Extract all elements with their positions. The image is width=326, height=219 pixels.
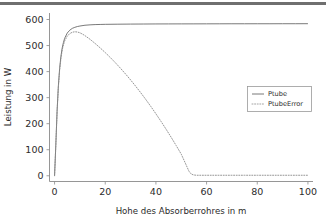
x-tick-label: 40 xyxy=(150,186,162,197)
y-axis-title: Leistung in W xyxy=(3,67,13,126)
legend-label-ptube: Ptube xyxy=(268,90,287,98)
line-chart-plot: 020406080100 0100200300400500600 Hohe de… xyxy=(0,0,326,219)
chart-figure: 020406080100 0100200300400500600 Hohe de… xyxy=(0,0,326,219)
legend-label-ptubeerror: PtubeError xyxy=(268,100,303,108)
x-tick-label: 80 xyxy=(251,186,263,197)
y-tick-label: 0 xyxy=(37,170,43,181)
y-tick-label: 200 xyxy=(25,118,43,129)
x-tick-label: 0 xyxy=(52,186,58,197)
x-tick-label: 60 xyxy=(201,186,213,197)
x-tick-label: 100 xyxy=(299,186,317,197)
chart-legend[interactable]: Ptube PtubeError xyxy=(248,87,312,112)
y-tick-label: 500 xyxy=(25,40,43,51)
y-axis-tick-labels: 0100200300400500600 xyxy=(25,14,43,181)
x-axis-title: Hohe des Absorberrohres in m xyxy=(116,206,247,216)
x-axis-tick-labels: 020406080100 xyxy=(52,186,317,197)
x-tick-label: 20 xyxy=(99,186,111,197)
y-tick-label: 600 xyxy=(25,14,43,25)
y-tick-label: 400 xyxy=(25,66,43,77)
y-tick-label: 300 xyxy=(25,92,43,103)
y-tick-label: 100 xyxy=(25,144,43,155)
